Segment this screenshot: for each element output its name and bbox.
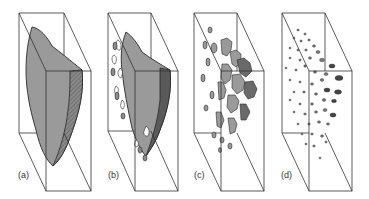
panel-b (108, 13, 178, 191)
inclusions-d (285, 29, 343, 159)
panel-label-a: (a) (18, 170, 29, 180)
panel-a (19, 13, 91, 191)
panel-label-c: (c) (194, 170, 205, 180)
diagram-canvas (0, 0, 369, 199)
panel-label-d: (d) (281, 170, 292, 180)
panel-c (194, 13, 264, 191)
panel-d (282, 13, 352, 191)
panel-label-b: (b) (108, 170, 119, 180)
